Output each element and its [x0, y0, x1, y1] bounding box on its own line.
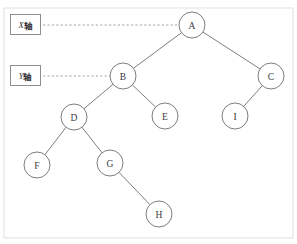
tree-edge-d-f — [45, 127, 66, 154]
tree-node-label-d: D — [71, 113, 78, 123]
tree-node-label-h: H — [156, 210, 163, 220]
tree-node-label-e: E — [162, 112, 168, 122]
y-axis-box[interactable]: Y轴 — [10, 65, 41, 86]
x-axis-box[interactable]: X轴 — [10, 14, 41, 35]
tree-edge-d-g — [82, 127, 102, 153]
tree-edge-a-c — [203, 32, 260, 69]
dashed-connector-group — [43, 25, 179, 76]
tree-node-label-a: A — [189, 21, 196, 31]
tree-node-label-b: B — [120, 72, 126, 82]
tree-node-label-f: F — [34, 161, 39, 171]
tree-node-label-i: I — [233, 112, 236, 122]
tree-edge-b-d — [84, 84, 113, 108]
tree-edge-b-e — [132, 85, 155, 107]
y-axis-box-word: 轴 — [23, 70, 32, 82]
tree-diagram: ABCDEIFGH X轴Y轴 — [0, 0, 297, 244]
tree-node-group: ABCDEIFGH — [24, 12, 284, 227]
tree-edge-c-i — [244, 86, 263, 107]
tree-edge-a-b — [133, 33, 181, 69]
x-axis-box-word: 轴 — [24, 19, 33, 31]
tree-node-label-c: C — [268, 72, 274, 82]
tree-node-label-g: G — [107, 159, 114, 169]
tree-edge-g-h — [119, 172, 150, 204]
tree-svg-canvas: ABCDEIFGH — [0, 0, 297, 244]
